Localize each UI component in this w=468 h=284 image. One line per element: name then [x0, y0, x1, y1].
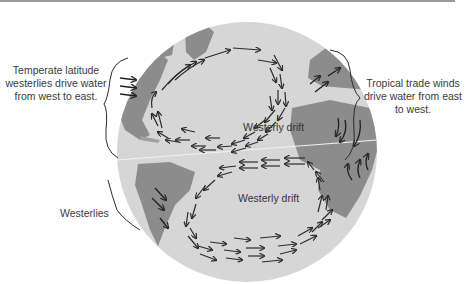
globe-diagram [0, 0, 468, 284]
westerlies-annotation: Westerlies [60, 207, 109, 220]
westerly-drift-north-label: Westerly drift [243, 121, 304, 133]
tropical-trade-winds-annotation: Tropical trade winds drive water from ea… [360, 77, 466, 116]
westerly-drift-south-label: Westerly drift [238, 192, 299, 204]
temperate-westerlies-annotation: Temperate latitude westerlies drive wate… [2, 64, 110, 103]
